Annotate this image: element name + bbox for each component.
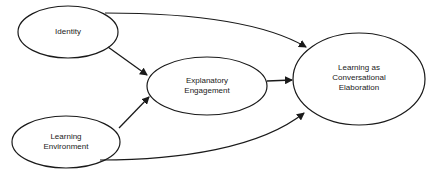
edge-environment-to-engagement <box>119 97 149 128</box>
edge-identity-to-learning <box>105 13 306 47</box>
explanatory-engagement-label: Explanatory Engagement <box>147 74 267 98</box>
learning-environment-label: Learning Environment <box>12 130 120 154</box>
identity-label: Identity <box>18 22 118 42</box>
learning-environment-label-line-1: Learning <box>50 132 81 142</box>
learning-conversational-label-line-3: Elaboration <box>339 83 379 93</box>
identity-label-line: Identity <box>55 27 81 37</box>
edge-engagement-to-learning <box>267 80 292 81</box>
learning-conversational-label: Learning as Conversational Elaboration <box>293 62 425 94</box>
explanatory-engagement-label-line-1: Explanatory <box>186 76 228 86</box>
edge-environment-to-learning <box>100 113 304 160</box>
learning-conversational-label-line-2: Conversational <box>332 73 385 83</box>
learning-environment-label-line-2: Environment <box>44 142 89 152</box>
learning-conversational-label-line-1: Learning as <box>338 63 380 73</box>
edge-identity-to-engagement <box>108 47 147 75</box>
explanatory-engagement-label-line-2: Engagement <box>184 86 229 96</box>
